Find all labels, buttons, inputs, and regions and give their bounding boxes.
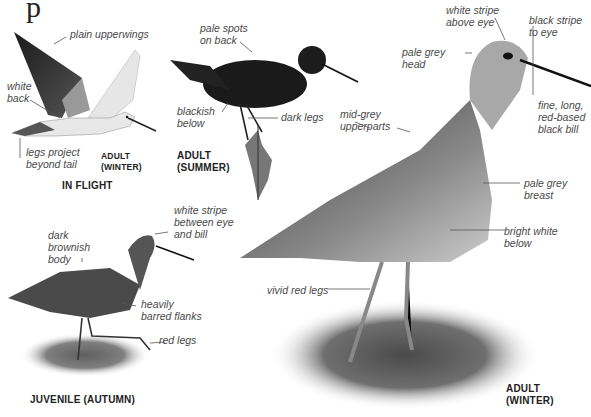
label-dark-brownish-body: dark brownish body (48, 229, 90, 265)
label-plain-upperwings: plain upperwings (70, 28, 149, 40)
label-red-legs: red legs (159, 334, 196, 346)
caption-juvenile-autumn: JUVENILE (AUTUMN) (30, 394, 135, 406)
label-dark-legs: dark legs (281, 111, 324, 123)
label-white-stripe-eye-bill: white stripe between eye and bill (174, 204, 234, 240)
in-flight-bird (12, 32, 156, 136)
label-vivid-red-legs: vivid red legs (267, 284, 328, 296)
caption-adult-winter: ADULT (WINTER) (506, 383, 554, 407)
label-pale-grey-head: pale grey head (402, 46, 445, 70)
label-bright-white-below: bright white below (504, 225, 558, 249)
label-white-stripe-above-eye: white stripe above eye (446, 4, 499, 28)
label-pale-grey-breast: pale grey breast (524, 177, 567, 201)
label-legs-project: legs project beyond tail (26, 146, 80, 170)
label-mid-grey-upperparts: mid-grey upperparts (340, 108, 390, 132)
caption-adult-summer: ADULT (SUMMER) (177, 150, 230, 174)
label-pale-spots: pale spots on back (200, 22, 248, 46)
bird-illustrations (0, 0, 591, 417)
label-heavily-barred-flanks: heavily barred flanks (141, 298, 202, 322)
label-black-stripe-to-eye: black stripe to eye (529, 14, 582, 38)
label-fine-long-bill: fine, long, red-based black bill (538, 99, 585, 135)
label-blackish-below: blackish below (177, 105, 215, 129)
label-white-back: white back (7, 80, 32, 104)
caption-in-flight-age: ADULT (WINTER) (101, 151, 142, 173)
caption-in-flight: IN FLIGHT (62, 180, 113, 192)
